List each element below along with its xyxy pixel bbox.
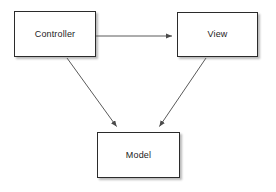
node-model-label: Model: [126, 150, 151, 161]
node-view[interactable]: View: [177, 12, 258, 57]
diagram-canvas: Controller View Model: [0, 0, 276, 192]
edge-controller-to-model: [67, 58, 117, 127]
node-controller-label: Controller: [35, 29, 76, 40]
node-view-label: View: [208, 29, 228, 40]
node-model[interactable]: Model: [97, 132, 180, 178]
edge-view-to-model: [159, 58, 206, 127]
node-controller[interactable]: Controller: [14, 11, 96, 57]
